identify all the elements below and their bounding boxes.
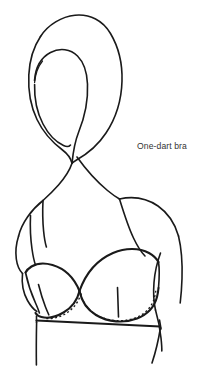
one-dart-bra-illustration: One-dart bra bbox=[0, 0, 224, 388]
bra-right-cup-side-seam bbox=[159, 262, 160, 288]
illustration-canvas: One-dart bra bbox=[0, 0, 224, 388]
bust-dart bbox=[118, 288, 119, 318]
caption-label: One-dart bra bbox=[137, 141, 187, 151]
